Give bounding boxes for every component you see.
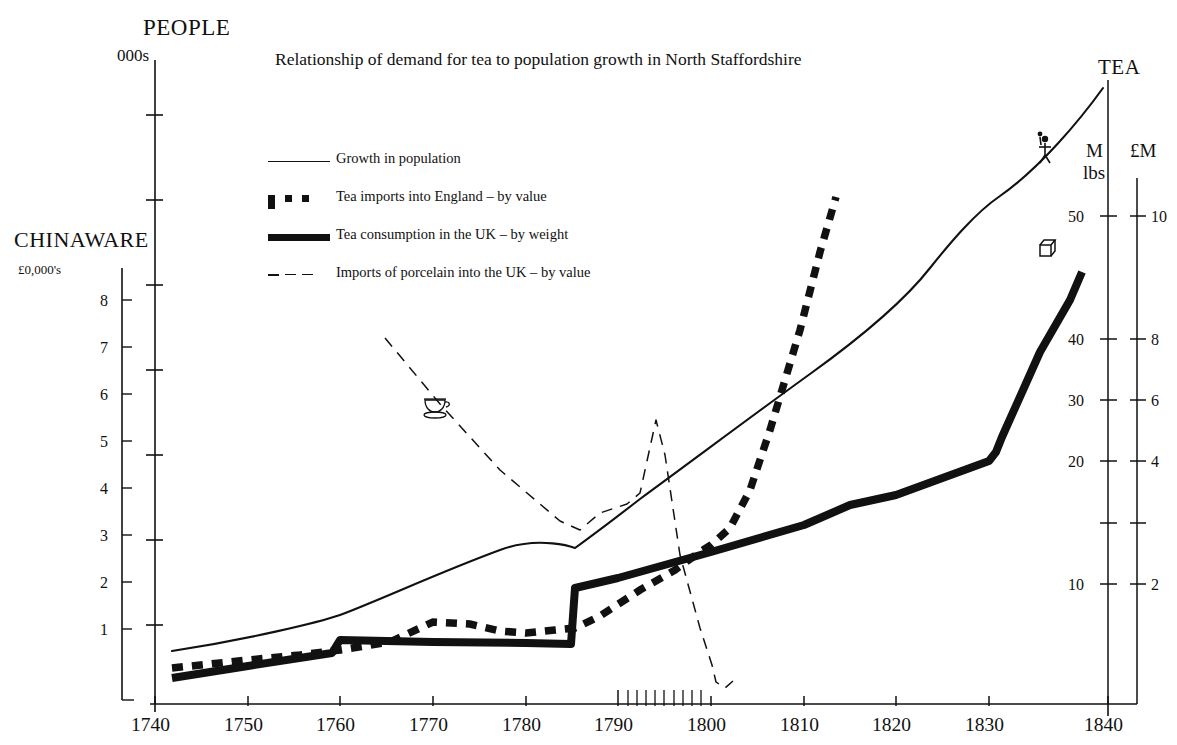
x-tick-1790: 1790 — [594, 715, 633, 735]
x-tick-1810: 1810 — [780, 715, 819, 735]
plot-area — [0, 0, 1177, 745]
x-tick-1780: 1780 — [502, 715, 541, 735]
tea-weight-axis-line — [1100, 80, 1117, 704]
x-tick-1840: 1840 — [1084, 715, 1123, 735]
x-tick-1760: 1760 — [316, 715, 355, 735]
chinaware-tick-3: 3 — [100, 528, 108, 544]
people-axis-line — [146, 60, 163, 704]
x-tick-1770: 1770 — [409, 715, 448, 735]
chinaware-axis-line — [122, 268, 134, 700]
tea-value-tick-8: 8 — [1151, 332, 1159, 348]
tea-weight-tick-20: 20 — [1068, 454, 1084, 470]
tea-chest-icon — [1040, 240, 1055, 256]
x-tick-1750: 1750 — [224, 715, 263, 735]
tea-weight-tick-50: 50 — [1068, 209, 1084, 225]
chinaware-tick-8: 8 — [100, 293, 108, 309]
chinaware-tick-7: 7 — [100, 340, 108, 356]
chinaware-tick-6: 6 — [100, 387, 108, 403]
chinaware-tick-2: 2 — [100, 575, 108, 591]
series-line-tea-consumption — [172, 272, 1082, 678]
chinaware-tick-5: 5 — [100, 434, 108, 450]
tea-weight-tick-10: 10 — [1068, 577, 1084, 593]
series-line-population — [172, 88, 1103, 651]
chinaware-tick-1: 1 — [100, 622, 108, 638]
x-tick-1740: 1740 — [131, 715, 170, 735]
chart-canvas: PEOPLE 000s CHINAWARE £0,000's TEA M lbs… — [0, 0, 1177, 745]
tea-value-tick-10: 10 — [1151, 209, 1167, 225]
series-line-porcelain — [385, 338, 733, 688]
x-axis-line — [150, 690, 1137, 716]
tea-value-tick-4: 4 — [1151, 454, 1159, 470]
tea-weight-tick-30: 30 — [1068, 393, 1084, 409]
tea-value-tick-2: 2 — [1151, 577, 1159, 593]
tea-value-axis-line — [1130, 178, 1146, 704]
tea-value-tick-6: 6 — [1151, 393, 1159, 409]
x-tick-1800: 1800 — [687, 715, 726, 735]
series-line-tea-imports — [172, 197, 836, 668]
x-tick-1820: 1820 — [872, 715, 911, 735]
tea-weight-tick-40: 40 — [1068, 332, 1084, 348]
x-tick-1830: 1830 — [965, 715, 1004, 735]
teacup-icon — [424, 399, 449, 418]
chinaware-tick-4: 4 — [100, 481, 108, 497]
